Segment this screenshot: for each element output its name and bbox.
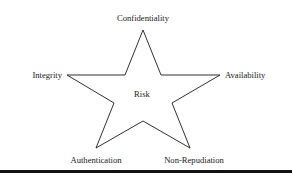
label-authentication: Authentication xyxy=(70,155,122,165)
center-label-risk: Risk xyxy=(134,89,150,99)
label-availability: Availability xyxy=(225,70,266,80)
risk-star-diagram: Risk Confidentiality Availability Non-Re… xyxy=(0,0,292,187)
label-confidentiality: Confidentiality xyxy=(117,13,170,23)
label-integrity: Integrity xyxy=(32,70,62,80)
label-non-repudiation: Non-Repudiation xyxy=(164,155,224,165)
bottom-rule-divider xyxy=(0,170,292,173)
